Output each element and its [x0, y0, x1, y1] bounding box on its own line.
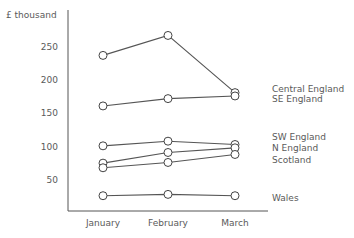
series-line [99, 31, 239, 96]
series-line [99, 137, 239, 150]
series-label: Wales [272, 193, 299, 203]
data-point [164, 148, 172, 156]
data-point [164, 31, 172, 39]
x-tick-label: January [85, 218, 121, 228]
series-group [99, 31, 239, 199]
y-axis-ticks: 50100150200250 [41, 42, 58, 185]
data-point [164, 137, 172, 145]
series-label: Central England [272, 84, 344, 94]
y-axis-label: £ thousand [6, 10, 57, 20]
data-point [99, 192, 107, 200]
series-line [99, 92, 239, 110]
series-line [99, 190, 239, 199]
data-point [231, 92, 239, 100]
y-tick-label: 250 [41, 42, 58, 52]
data-point [231, 150, 239, 158]
series-label: Scotland [272, 155, 311, 165]
data-point [231, 192, 239, 200]
y-tick-label: 100 [41, 142, 58, 152]
x-tick-label: February [148, 218, 189, 228]
data-point [99, 142, 107, 150]
y-tick-label: 50 [47, 175, 59, 185]
y-tick-label: 150 [41, 108, 58, 118]
y-tick-label: 200 [41, 75, 58, 85]
data-point [99, 164, 107, 172]
series-labels: Central EnglandSE EnglandSW EnglandN Eng… [272, 84, 344, 203]
x-axis-labels: JanuaryFebruaryMarch [85, 218, 249, 228]
series-label: N England [272, 143, 318, 153]
data-point [164, 158, 172, 166]
series-label: SW England [272, 132, 326, 142]
data-point [99, 102, 107, 110]
x-tick-label: March [221, 218, 248, 228]
data-point [164, 190, 172, 198]
data-point [164, 95, 172, 103]
series-label: SE England [272, 94, 323, 104]
line-chart: £ thousand 50100150200250 JanuaryFebruar… [0, 0, 354, 238]
data-point [99, 51, 107, 59]
